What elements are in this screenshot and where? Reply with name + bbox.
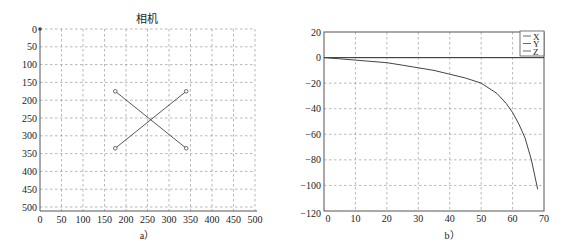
chart-b-caption: b） (445, 230, 460, 241)
x-tick-label: 70 (539, 213, 549, 224)
x-tick-label: 30 (413, 213, 423, 224)
y-tick-label: −40 (305, 103, 321, 114)
y-tick-label: −20 (305, 78, 321, 89)
y-tick-label: −60 (305, 129, 321, 140)
chart-b-plot (324, 58, 544, 190)
plot-frame (324, 32, 544, 211)
x-tick-label: 20 (382, 213, 392, 224)
chart-b-line: 010203040506070200−20−40−60−80−100−120 X… (0, 0, 567, 252)
legend-label: Z (533, 47, 539, 57)
x-tick-label: 40 (445, 213, 455, 224)
x-tick-label: 10 (350, 213, 360, 224)
y-tick-label: −100 (300, 180, 321, 191)
chart-b-tick-labels: 010203040506070200−20−40−60−80−100−120 (300, 27, 549, 225)
chart-b-grid (324, 32, 544, 211)
x-tick-label: 0 (326, 213, 331, 224)
y-tick-label: 20 (311, 27, 321, 38)
chart-b-legend: XYZ (520, 31, 544, 57)
y-tick-label: −80 (305, 154, 321, 165)
series-z (324, 58, 538, 190)
y-tick-label: 0 (316, 52, 321, 63)
y-tick-label: −120 (300, 208, 321, 219)
x-tick-label: 50 (476, 213, 486, 224)
chart-b-axes (324, 32, 544, 211)
x-tick-label: 60 (508, 213, 518, 224)
